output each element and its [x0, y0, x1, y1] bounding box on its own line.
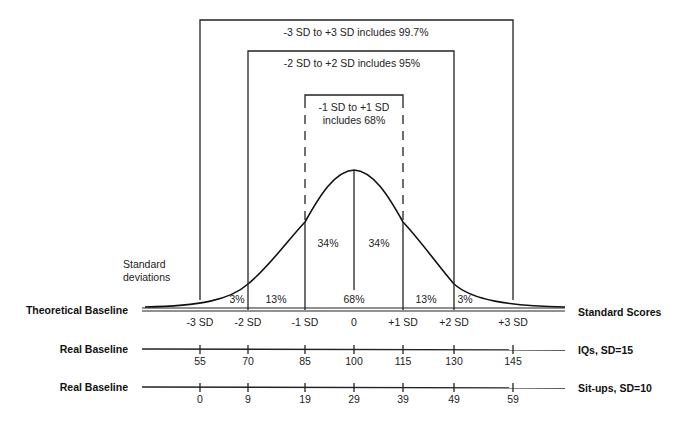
tick-label: 100 — [345, 355, 363, 367]
area-left-13: 13% — [265, 293, 286, 305]
tick-label: 49 — [448, 393, 460, 405]
tick-label: +3 SD — [498, 316, 528, 328]
tick-label: 29 — [348, 393, 360, 405]
tick-label: 85 — [299, 355, 311, 367]
tick-label: -1 SD — [292, 316, 319, 328]
tick-label: 70 — [242, 355, 254, 367]
tick-label: 19 — [299, 393, 311, 405]
area-center-68: 68% — [343, 293, 364, 305]
tick-label: +1 SD — [388, 316, 418, 328]
bracket-2sd-label: -2 SD to +2 SD includes 95% — [284, 57, 420, 69]
row1-ticks: -3 SD -2 SD -1 SD 0 +1 SD +2 SD +3 SD — [187, 316, 529, 328]
tick-label: 145 — [504, 355, 522, 367]
bracket-1sd-label-1: -1 SD to +1 SD — [319, 101, 390, 113]
row2-right-label: IQs, SD=15 — [578, 344, 633, 356]
sd-label-2: deviations — [123, 271, 170, 283]
bracket-2sd — [248, 51, 454, 275]
tick-label: 0 — [351, 316, 357, 328]
area-right-3: 3% — [457, 293, 472, 305]
row3-ticks: 0 9 19 29 39 49 59 — [197, 393, 519, 405]
tick-label: -3 SD — [187, 316, 214, 328]
area-right-34: 34% — [368, 237, 389, 249]
bell-curve — [145, 170, 565, 307]
tick-label: +2 SD — [439, 316, 469, 328]
sd-label-1: Standard — [123, 258, 166, 270]
normal-curve-diagram: -3 SD to +3 SD includes 99.7% -2 SD to +… — [0, 0, 685, 423]
bracket-3sd-label: -3 SD to +3 SD includes 99.7% — [283, 26, 428, 38]
tick-label: 0 — [197, 393, 203, 405]
row1-left-label: Theoretical Baseline — [26, 304, 128, 316]
tick-label: 9 — [245, 393, 251, 405]
tick-label: 55 — [194, 355, 206, 367]
area-right-13: 13% — [415, 293, 436, 305]
row3-left-label: Real Baseline — [60, 381, 128, 393]
area-left-3: 3% — [229, 293, 244, 305]
tick-label: 130 — [445, 355, 463, 367]
row2-ticks: 55 70 85 100 115 130 145 — [194, 355, 522, 367]
tick-label: 59 — [507, 393, 519, 405]
tick-label: 115 — [395, 355, 412, 367]
row1-right-label: Standard Scores — [578, 306, 662, 318]
tick-label: -2 SD — [235, 316, 262, 328]
row3-right-label: Sit-ups, SD=10 — [578, 382, 652, 394]
bracket-1sd-label-2: includes 68% — [323, 114, 385, 126]
tick-label: 39 — [397, 393, 409, 405]
row2-left-label: Real Baseline — [60, 343, 128, 355]
bracket-1sd-top — [305, 95, 403, 99]
area-left-34: 34% — [317, 237, 338, 249]
